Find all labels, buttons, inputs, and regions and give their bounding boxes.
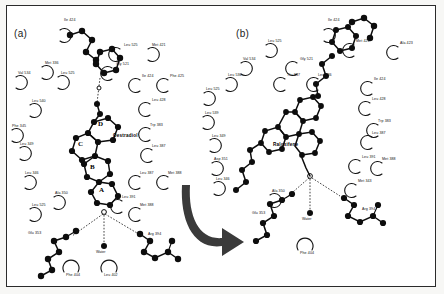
residue-label: Ile 424 bbox=[328, 19, 340, 23]
figure-root: (a) bbox=[0, 0, 444, 294]
residue-label: Asp 351 bbox=[214, 158, 228, 162]
residue-label: Leu 525 bbox=[61, 72, 75, 76]
residue-label: Arg 394 bbox=[148, 233, 161, 237]
residue-label: Glu 353 bbox=[252, 212, 265, 216]
residue-label: Met 388 bbox=[382, 158, 396, 162]
transition-arrow bbox=[182, 185, 244, 256]
residue-label: Val 534 bbox=[243, 58, 256, 62]
residue-label: Glu 353 bbox=[28, 232, 41, 236]
panel-b-structure bbox=[0, 0, 444, 294]
ligand-name-b: Raloxifene bbox=[273, 142, 298, 147]
residue-label: Phe 404 bbox=[66, 274, 80, 278]
residue-label: Leu 346 bbox=[318, 74, 332, 78]
residue-label: Met 388 bbox=[140, 204, 154, 208]
residue-label: Met 421 bbox=[152, 44, 166, 48]
residue-label: Ala 350 bbox=[272, 190, 285, 194]
residue-label: Leu 428 bbox=[372, 98, 386, 102]
residue-label: Trp 383 bbox=[378, 120, 391, 124]
hbond-network-b bbox=[286, 158, 340, 216]
residue-label: Ala 350 bbox=[55, 192, 68, 196]
residue-label: Leu 349 bbox=[212, 135, 226, 139]
residue-label: Leu 346 bbox=[25, 172, 39, 176]
residue-label: Gly 521 bbox=[116, 63, 129, 67]
residue-label: Leu 525 bbox=[32, 204, 46, 208]
residue-label: Ile 424 bbox=[374, 78, 386, 82]
residue-label: Leu 402 bbox=[104, 274, 118, 278]
residue-label: Leu 391 bbox=[362, 156, 376, 160]
residue-label: Ala 423 bbox=[400, 42, 413, 46]
residue-label: Trp 383 bbox=[150, 124, 163, 128]
residue-label: Arg 394 bbox=[362, 208, 375, 212]
residue-label: Leu 387 bbox=[372, 132, 386, 136]
residue-label: Val 534 bbox=[18, 72, 31, 76]
residue-arcs-b bbox=[203, 29, 398, 251]
residue-label: Met 421 bbox=[356, 40, 370, 44]
glu353-sidechain-b bbox=[253, 191, 295, 244]
residue-label: Leu 539 bbox=[205, 112, 219, 116]
residue-label: Leu 387 bbox=[152, 145, 166, 149]
water-label-b: Water bbox=[302, 217, 311, 221]
residue-label: Leu 349 bbox=[20, 143, 34, 147]
residue-label: Phe 404 bbox=[300, 252, 314, 256]
left-phenol-b bbox=[233, 143, 261, 193]
residue-label: Leu 391 bbox=[122, 196, 136, 200]
residue-label: Leu 525 bbox=[206, 88, 220, 92]
residue-label: Ile 424 bbox=[64, 19, 76, 23]
residue-label: Leu 387 bbox=[140, 172, 154, 176]
residue-label: Leu 536 bbox=[228, 74, 242, 78]
residue-label: Leu 346 bbox=[216, 178, 230, 182]
residue-label: Ile 424 bbox=[142, 75, 154, 79]
residue-label: Thr 347 bbox=[287, 74, 300, 78]
residue-label: Gly 521 bbox=[300, 58, 313, 62]
residue-label: Leu 428 bbox=[152, 99, 166, 103]
residue-label: Leu 525 bbox=[124, 44, 138, 48]
residue-label: Phe 345 bbox=[12, 125, 26, 129]
residue-label: Met 388 bbox=[168, 172, 182, 176]
residue-label: Met 343 bbox=[358, 180, 372, 184]
residue-label: Leu 540 bbox=[32, 100, 46, 104]
core-rings-b bbox=[258, 94, 324, 158]
residue-label: Phe 425 bbox=[170, 75, 184, 79]
residue-label: Met 336 bbox=[45, 62, 59, 66]
residue-label: Leu 525 bbox=[268, 40, 282, 44]
